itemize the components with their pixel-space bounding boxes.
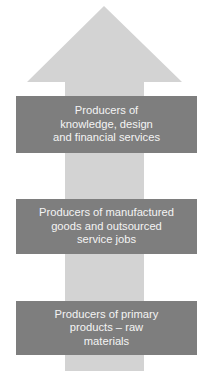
level-label-top: Producers of knowledge, design and finan… bbox=[53, 104, 160, 145]
level-box-top: Producers of knowledge, design and finan… bbox=[16, 96, 197, 153]
level-label-bottom: Producers of primary products – raw mate… bbox=[55, 308, 159, 349]
level-box-bottom: Producers of primary products – raw mate… bbox=[16, 301, 197, 355]
level-label-middle: Producers of manufactured goods and outs… bbox=[39, 206, 174, 247]
level-box-middle: Producers of manufactured goods and outs… bbox=[16, 199, 197, 254]
